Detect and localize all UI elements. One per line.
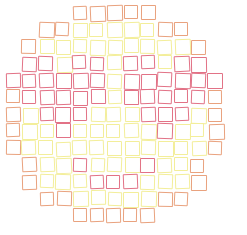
mosaic-tile — [124, 89, 139, 104]
mosaic-tile — [174, 22, 188, 36]
mosaic-tile — [73, 208, 87, 222]
mosaic-tile — [140, 207, 156, 223]
mosaic-tile — [123, 56, 138, 71]
mosaic-tile — [157, 123, 174, 140]
mosaic-tile — [73, 191, 89, 207]
mosaic-tile — [140, 140, 155, 155]
mosaic-tile — [124, 73, 140, 89]
mosaic-tile — [157, 90, 172, 105]
mosaic-tile — [38, 55, 54, 71]
mosaic-tile — [90, 73, 106, 89]
mosaic-tile — [157, 72, 173, 88]
mosaic-tile — [21, 74, 36, 89]
mosaic-tile — [22, 175, 38, 191]
mosaic-tile — [107, 55, 122, 70]
mosaic-tile — [90, 208, 105, 223]
mosaic-tile — [174, 39, 191, 56]
mosaic-tile — [123, 22, 140, 39]
mosaic-tile — [6, 140, 22, 156]
mosaic-tile — [22, 157, 38, 173]
mosaic-tile — [106, 107, 122, 123]
mosaic-tile — [90, 124, 104, 138]
mosaic-tile — [21, 56, 36, 71]
mosaic-tile — [190, 158, 205, 173]
mosaic-tile — [40, 90, 55, 105]
mosaic-tile — [158, 55, 172, 69]
mosaic-tile — [191, 108, 207, 124]
mosaic-tile — [72, 39, 87, 54]
mosaic-tile — [21, 123, 37, 139]
mosaic-tile — [208, 123, 224, 139]
mosaic-tile — [158, 174, 174, 190]
mosaic-tile — [89, 140, 104, 155]
mosaic-tile — [55, 173, 71, 189]
mosaic-tile — [208, 108, 222, 122]
mosaic-tile — [140, 174, 156, 190]
mosaic-tile — [91, 107, 107, 123]
mosaic-tile — [157, 158, 173, 174]
mosaic-tile — [56, 40, 71, 55]
mosaic-tile — [38, 72, 54, 88]
mosaic-tile — [38, 21, 55, 38]
mosaic-tile — [6, 73, 21, 88]
mosaic-tile — [157, 40, 172, 55]
mosaic-tile — [140, 23, 155, 38]
mosaic-tile — [38, 140, 53, 155]
mosaic-tile — [56, 157, 72, 173]
mosaic-tile — [89, 23, 104, 38]
mosaic-tile — [174, 141, 189, 156]
mosaic-tile — [123, 207, 138, 222]
mosaic-tile — [158, 107, 173, 122]
mosaic-tile — [107, 5, 123, 21]
mosaic-tile — [107, 22, 123, 38]
mosaic-tile — [73, 173, 88, 188]
mosaic-tile — [39, 174, 54, 189]
mosaic-tile — [73, 106, 88, 121]
smiley-mosaic — [0, 0, 247, 235]
mosaic-tile — [40, 39, 55, 54]
mosaic-tile — [141, 107, 156, 122]
mosaic-tile — [89, 40, 106, 57]
mosaic-tile — [56, 191, 71, 206]
mosaic-tile — [90, 57, 105, 72]
mosaic-tile — [158, 22, 174, 38]
mosaic-tile — [141, 5, 156, 20]
mosaic-tile — [124, 157, 140, 173]
mosaic-tile — [108, 40, 124, 56]
mosaic-tile — [125, 107, 140, 122]
mosaic-tile — [72, 55, 87, 70]
mosaic-tile — [40, 124, 54, 138]
mosaic-tile — [191, 40, 206, 55]
mosaic-tile — [141, 191, 157, 207]
mosaic-tile — [190, 90, 205, 105]
mosaic-tile — [208, 89, 223, 104]
mosaic-tile — [21, 140, 36, 155]
mosaic-tile — [39, 157, 55, 173]
mosaic-tile — [90, 5, 106, 21]
mosaic-tile — [174, 157, 188, 171]
mosaic-tile — [140, 158, 155, 173]
mosaic-tile — [73, 5, 88, 20]
mosaic-tile — [6, 89, 21, 104]
mosaic-tile — [123, 174, 139, 190]
mosaic-tile — [141, 74, 157, 90]
mosaic-tile — [140, 39, 156, 55]
mosaic-tile — [73, 73, 89, 89]
mosaic-tile — [106, 141, 121, 156]
mosaic-tile — [107, 192, 122, 207]
mosaic-tile — [40, 192, 55, 207]
mosaic-tile — [190, 123, 204, 137]
mosaic-tile — [174, 89, 188, 103]
mosaic-tile — [91, 190, 106, 205]
mosaic-tile — [107, 90, 122, 105]
mosaic-tile — [55, 90, 71, 106]
mosaic-tile — [106, 124, 120, 138]
mosaic-tile — [56, 57, 72, 73]
mosaic-tile — [106, 175, 120, 189]
mosaic-tile — [55, 107, 71, 123]
mosaic-tile — [55, 22, 70, 37]
mosaic-tile — [91, 158, 106, 173]
mosaic-tile — [23, 108, 39, 124]
mosaic-tile — [6, 123, 21, 138]
mosaic-tile — [73, 158, 88, 173]
